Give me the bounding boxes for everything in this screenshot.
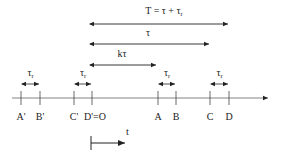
interval-label: τr bbox=[80, 67, 87, 79]
tick-label: D bbox=[225, 111, 232, 122]
interval-label: τr bbox=[27, 67, 34, 79]
tick-label: C bbox=[207, 111, 214, 122]
time-direction-arrow: t bbox=[91, 126, 129, 150]
interval-label: τr bbox=[164, 67, 171, 79]
tick-label: A' bbox=[16, 111, 25, 122]
tick-label: B bbox=[173, 111, 180, 122]
duration-label: T = τ + τr bbox=[145, 5, 183, 17]
interval-label: τr bbox=[216, 67, 223, 79]
tick-label: D'=O bbox=[84, 111, 106, 122]
tick-label: C' bbox=[70, 111, 79, 122]
time-label: t bbox=[126, 126, 129, 137]
tick-label: B' bbox=[36, 111, 45, 122]
timing-diagram: T = τ + τrτkτ τrτrτrτr A'B'C'D'=OABCD t bbox=[0, 0, 283, 160]
interval-markers: τrτrτrτr bbox=[22, 67, 228, 84]
duration-label: τ bbox=[146, 27, 150, 38]
duration-arrows: T = τ + τrτkτ bbox=[90, 5, 228, 65]
duration-label: kτ bbox=[117, 48, 126, 59]
axis-ticks: A'B'C'D'=OABCD bbox=[16, 91, 232, 122]
tick-label: A bbox=[154, 111, 162, 122]
